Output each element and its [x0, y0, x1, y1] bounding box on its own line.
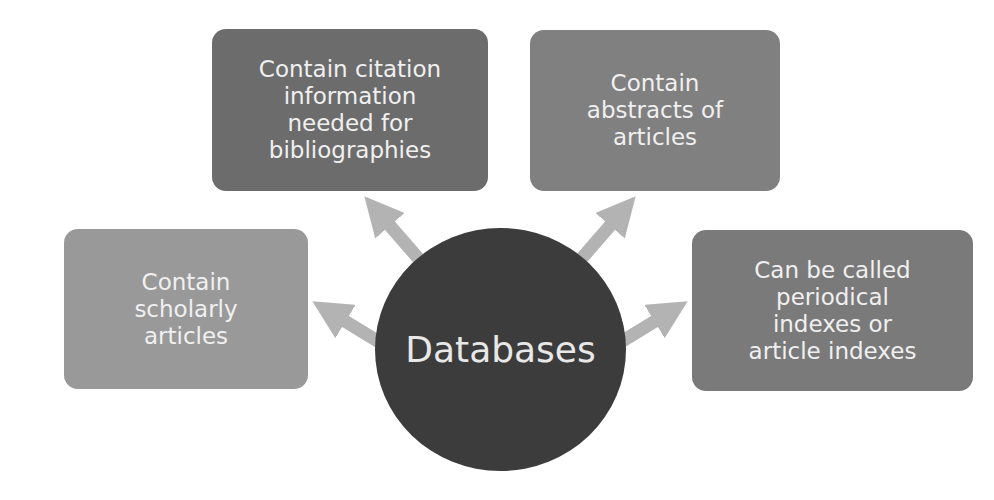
node-label: Can be called periodical indexes or arti…: [749, 257, 917, 365]
node-label: Contain citation information needed for …: [259, 56, 441, 164]
node-label: Contain abstracts of articles: [587, 70, 723, 151]
node-citation-information: Contain citation information needed for …: [212, 29, 488, 191]
node-scholarly-articles: Contain scholarly articles: [64, 229, 308, 389]
node-label: Contain scholarly articles: [134, 269, 237, 350]
arrow-to-top-left: [378, 212, 418, 258]
node-abstracts: Contain abstracts of articles: [530, 30, 780, 191]
arrow-to-top-right: [582, 212, 622, 258]
hub-label: Databases: [405, 329, 596, 370]
node-periodical-indexes: Can be called periodical indexes or arti…: [692, 230, 973, 391]
hub-circle-databases: Databases: [375, 228, 626, 471]
